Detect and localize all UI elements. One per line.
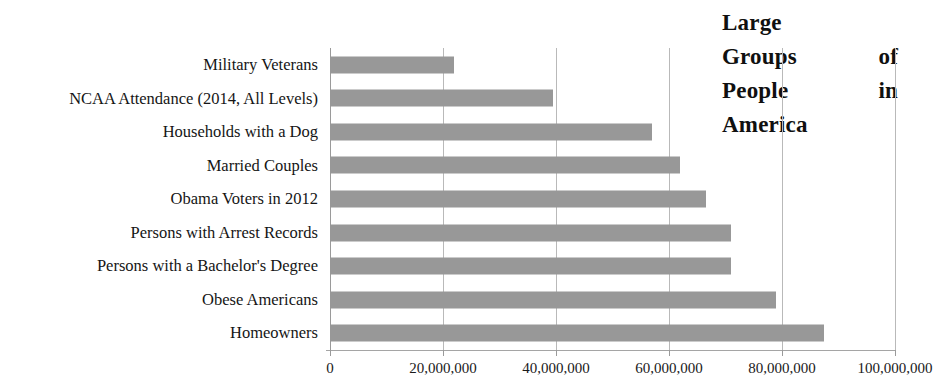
bar-row — [330, 216, 895, 250]
category-label: Persons with a Bachelor's Degree — [0, 249, 324, 283]
bar-row — [330, 48, 895, 82]
bar[interactable] — [330, 224, 731, 241]
x-tick-label: 80,000,000 — [748, 360, 816, 377]
bar[interactable] — [330, 190, 706, 207]
bar-row — [330, 149, 895, 183]
category-label: Households with a Dog — [0, 115, 324, 149]
x-tick-mark — [330, 350, 331, 356]
category-label: Military Veterans — [0, 48, 324, 82]
category-label: Obese Americans — [0, 283, 324, 317]
category-label: Married Couples — [0, 149, 324, 183]
x-tick-label: 0 — [326, 360, 334, 377]
bar-series — [330, 48, 895, 350]
bar-row — [330, 249, 895, 283]
bar[interactable] — [330, 258, 731, 275]
category-label: NCAA Attendance (2014, All Levels) — [0, 82, 324, 116]
chart-title-line-1: Large — [722, 6, 898, 40]
x-tick-label: 100,000,000 — [858, 360, 933, 377]
x-tick-mark — [443, 350, 444, 356]
bar-row — [330, 82, 895, 116]
x-tick-mark — [895, 350, 896, 356]
x-tick-mark — [556, 350, 557, 356]
bar[interactable] — [330, 157, 680, 174]
category-label: Obama Voters in 2012 — [0, 182, 324, 216]
x-tick-label: 20,000,000 — [409, 360, 477, 377]
bar-row — [330, 182, 895, 216]
bar[interactable] — [330, 325, 824, 342]
bar[interactable] — [330, 56, 454, 73]
gridline — [895, 48, 896, 350]
category-label: Homeowners — [0, 316, 324, 350]
bar-row — [330, 283, 895, 317]
bar[interactable] — [330, 123, 652, 140]
x-tick-mark — [669, 350, 670, 356]
bar[interactable] — [330, 291, 776, 308]
bar-row — [330, 316, 895, 350]
x-tick-label: 60,000,000 — [635, 360, 703, 377]
category-label: Persons with Arrest Records — [0, 216, 324, 250]
bar-row — [330, 115, 895, 149]
x-tick-mark — [782, 350, 783, 356]
plot-area — [330, 48, 895, 350]
chart-figure: Large Groups of People in America Milita… — [0, 0, 948, 385]
bar[interactable] — [330, 90, 553, 107]
x-tick-label: 40,000,000 — [522, 360, 590, 377]
category-axis-line — [326, 350, 895, 351]
category-axis-labels: Military VeteransNCAA Attendance (2014, … — [0, 48, 324, 350]
